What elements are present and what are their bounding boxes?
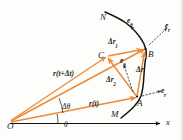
- point-label-C: C: [98, 51, 104, 60]
- e-r-top-subscript: r: [168, 27, 170, 33]
- vector-label-delta-r2: Δr2: [106, 76, 116, 86]
- vector-diagram-figure: N B C A M O x r(t+Δt) r(t) Δr Δr1 Δr2 eθ…: [0, 0, 183, 140]
- unit-vector-label-e-r-top: er: [165, 22, 170, 32]
- unit-vector-label-e-r-bottom: er: [161, 87, 166, 97]
- diagram-canvas: [0, 0, 183, 140]
- point-label-N: N: [100, 13, 106, 22]
- vector-label-delta-r: Δr: [136, 66, 144, 74]
- vector-label-delta-r1: Δr1: [108, 38, 118, 48]
- angle-label-theta: θ: [64, 121, 68, 129]
- auxiliary-arc-OC: [11, 57, 106, 121]
- unit-vector-e-r-at-A: [142, 91, 161, 96]
- angle-label-delta-theta: Δθ: [62, 103, 70, 111]
- page-edge-strip: [181, 0, 183, 140]
- unit-vector-label-e-theta-mid: eθ: [120, 57, 126, 67]
- x-axis-label: x: [166, 118, 170, 127]
- angle-arc-theta: [57, 114, 58, 123]
- point-label-B: B: [148, 50, 154, 59]
- unit-vector-e-theta-at-A: [124, 65, 133, 92]
- point-label-M: M: [111, 110, 119, 119]
- unit-vector-label-e-theta-top: eθ: [127, 17, 133, 27]
- delta-r2-subscript: 2: [113, 81, 116, 87]
- vector-label-r-t-plus-dt: r(t+Δt): [53, 70, 74, 78]
- delta-r1-subscript: 1: [115, 43, 118, 49]
- e-theta-mid-subscript: θ: [123, 62, 126, 68]
- point-label-O: O: [7, 122, 14, 131]
- vector-label-r-t: r(t): [89, 100, 99, 108]
- e-theta-top-subscript: θ: [130, 22, 133, 28]
- e-r-bottom-subscript: r: [164, 92, 166, 98]
- point-label-A: A: [137, 99, 143, 108]
